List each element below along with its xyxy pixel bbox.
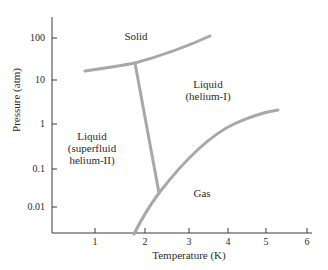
y-axis-label: Pressure (atm) — [10, 68, 22, 132]
x-tick-label-2: 2 — [137, 237, 153, 247]
phase-diagram-plot — [0, 0, 328, 270]
x-tick-label-5: 5 — [258, 237, 274, 247]
x-tick-label-1: 1 — [87, 237, 103, 247]
liquid-II-line1: Liquid — [68, 130, 116, 142]
liquid-II-line2: (superfluid — [68, 142, 116, 154]
region-label-gas: Gas — [193, 187, 210, 199]
liquid-I-line1: Liquid — [185, 78, 230, 90]
x-ticks — [95, 228, 307, 233]
x-tick-label-6: 6 — [299, 237, 315, 247]
x-axis-label: Temperature (K) — [152, 249, 225, 261]
y-tick-label-100: 100 — [5, 33, 45, 43]
lambda-line — [135, 63, 159, 193]
y-ticks — [52, 38, 57, 207]
region-label-liquid-helium-I: Liquid (helium-I) — [185, 78, 230, 102]
y-tick-label-0-01: 0.01 — [5, 202, 45, 212]
liquid-II-line3: helium-II) — [68, 154, 116, 166]
x-tick-label-3: 3 — [181, 237, 197, 247]
gas-label: Gas — [193, 187, 210, 199]
x-tick-label-4: 4 — [220, 237, 236, 247]
region-label-solid: Solid — [124, 30, 147, 42]
region-label-liquid-helium-II: Liquid (superfluid helium-II) — [68, 130, 116, 166]
solid-label: Solid — [124, 30, 147, 42]
y-tick-label-0-1: 0.1 — [5, 164, 45, 174]
liquid-I-line2: (helium-I) — [185, 90, 230, 102]
